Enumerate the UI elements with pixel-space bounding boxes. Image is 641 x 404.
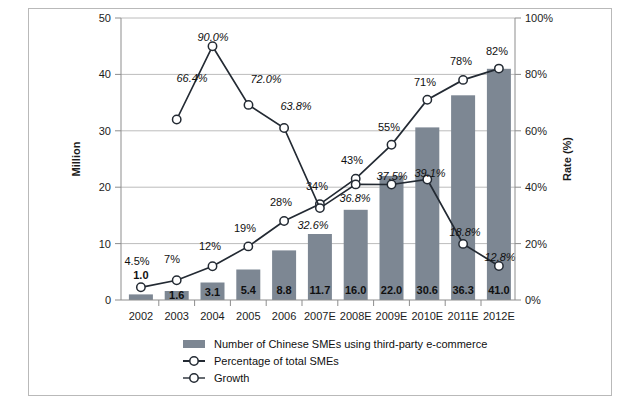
marker-pct-2011E bbox=[459, 76, 467, 84]
bar-label-2009E: 22.0 bbox=[381, 284, 402, 296]
bar-label-2003: 1.6 bbox=[169, 289, 184, 301]
marker-growth-2006 bbox=[280, 124, 288, 132]
legend-label-percentage: Percentage of total SMEs bbox=[214, 355, 339, 367]
x-label-2005: 2005 bbox=[236, 310, 260, 322]
legend-bar-swatch-icon bbox=[183, 340, 205, 348]
legend-line-circle-marker-icon-growth bbox=[183, 374, 205, 382]
bar-label-2005: 5.4 bbox=[241, 284, 257, 296]
right-tick-0: 0% bbox=[525, 294, 541, 306]
marker-pct-2005 bbox=[244, 242, 252, 250]
x-label-2006: 2006 bbox=[272, 310, 296, 322]
legend-label-growth: Growth bbox=[214, 372, 249, 384]
bar-label-2012E: 41.0 bbox=[488, 284, 509, 296]
x-label-2010E: 2010E bbox=[411, 310, 443, 322]
pct-label-2005: 19% bbox=[234, 222, 256, 234]
bar-2010E bbox=[415, 127, 439, 300]
left-tick-10: 10 bbox=[99, 238, 111, 250]
bar-2002 bbox=[129, 294, 153, 300]
legend-line-circle-marker-icon-percentage bbox=[183, 357, 205, 365]
growth-label-2003: 66.4% bbox=[176, 72, 207, 84]
bar-label-2002: 1.0 bbox=[133, 269, 148, 281]
x-label-2002: 2002 bbox=[129, 310, 153, 322]
x-label-2012E: 2012E bbox=[483, 310, 515, 322]
pct-label-2003: 7% bbox=[164, 253, 180, 265]
bar-label-2010E: 30.6 bbox=[417, 284, 438, 296]
chart-legend: Number of Chinese SMEs using third-party… bbox=[183, 338, 487, 384]
marker-pct-2010E bbox=[423, 96, 431, 104]
x-label-2007E: 2007E bbox=[304, 310, 336, 322]
left-tick-20: 20 bbox=[99, 181, 111, 193]
x-label-2004: 2004 bbox=[200, 310, 224, 322]
x-label-2009E: 2009E bbox=[376, 310, 408, 322]
marker-pct-2012E bbox=[495, 64, 503, 72]
bar-label-2008E: 16.0 bbox=[345, 284, 366, 296]
pct-label-2012E: 82% bbox=[486, 45, 508, 57]
left-tick-30: 30 bbox=[99, 125, 111, 137]
bar-2009E bbox=[380, 176, 404, 300]
growth-label-2005: 72.0% bbox=[250, 73, 281, 85]
pct-label-2009E: 55% bbox=[378, 121, 400, 133]
marker-pct-2004 bbox=[208, 262, 216, 270]
growth-label-2010E: 39.1% bbox=[414, 167, 445, 179]
x-axis: 2002 2003 2004 2005 2006 2007E 2008E 200… bbox=[121, 300, 515, 322]
growth-label-2008E: 36.8% bbox=[339, 192, 370, 204]
right-tick-60: 60% bbox=[525, 125, 547, 137]
pct-label-2002: 4.5% bbox=[124, 255, 149, 267]
bar-label-2004: 3.1 bbox=[205, 286, 220, 298]
marker-growth-2011E bbox=[459, 240, 467, 248]
left-axis: 50 40 30 20 10 0 Million bbox=[70, 12, 121, 306]
left-axis-title: Million bbox=[70, 141, 82, 176]
growth-label-2012E: 12.8% bbox=[484, 251, 515, 263]
pct-label-2010E: 71% bbox=[414, 76, 436, 88]
pct-label-2011E: 78% bbox=[450, 55, 472, 67]
bar-label-2006: 8.8 bbox=[276, 284, 291, 296]
growth-label-2006: 63.8% bbox=[280, 100, 311, 112]
marker-growth-2007E bbox=[316, 204, 324, 212]
marker-growth-2003 bbox=[173, 115, 181, 123]
pct-label-2008E: 43% bbox=[341, 154, 363, 166]
marker-growth-2012E bbox=[495, 262, 503, 270]
growth-label-2011E: 18.8% bbox=[449, 226, 480, 238]
right-tick-40: 40% bbox=[525, 181, 547, 193]
x-label-2008E: 2008E bbox=[340, 310, 372, 322]
bar-label-2007E: 11.7 bbox=[309, 284, 330, 296]
growth-label-2009E: 37.5% bbox=[376, 170, 407, 182]
x-label-2003: 2003 bbox=[164, 310, 188, 322]
growth-label-2004: 90.0% bbox=[197, 31, 228, 43]
marker-pct-2009E bbox=[387, 141, 395, 149]
marker-pct-2006 bbox=[280, 217, 288, 225]
left-tick-50: 50 bbox=[99, 12, 111, 24]
bar-2011E bbox=[451, 95, 475, 300]
pct-label-2004: 12% bbox=[199, 240, 221, 252]
legend-label-bars: Number of Chinese SMEs using third-party… bbox=[214, 338, 487, 350]
right-tick-20: 20% bbox=[525, 238, 547, 250]
right-tick-100: 100% bbox=[525, 12, 553, 24]
right-axis-title: Rate (%) bbox=[561, 137, 573, 181]
right-tick-80: 80% bbox=[525, 68, 547, 80]
left-tick-40: 40 bbox=[99, 68, 111, 80]
bar-label-2011E: 36.3 bbox=[452, 284, 473, 296]
x-label-2011E: 2011E bbox=[448, 310, 479, 322]
right-axis: 100% 80% 60% 40% 20% 0% Rate (%) bbox=[515, 12, 573, 306]
left-tick-0: 0 bbox=[105, 294, 111, 306]
growth-label-2007E: 32.6% bbox=[297, 219, 328, 231]
pct-label-2006: 28% bbox=[270, 196, 292, 208]
marker-growth-2005 bbox=[244, 101, 252, 109]
combo-chart: 1.0 1.6 3.1 5.4 8.8 11.7 16.0 22.0 30.6 … bbox=[0, 0, 641, 404]
marker-pct-2003 bbox=[173, 276, 181, 284]
marker-growth-2004 bbox=[208, 42, 216, 50]
marker-growth-2008E bbox=[352, 180, 360, 188]
marker-pct-2002 bbox=[137, 283, 145, 291]
